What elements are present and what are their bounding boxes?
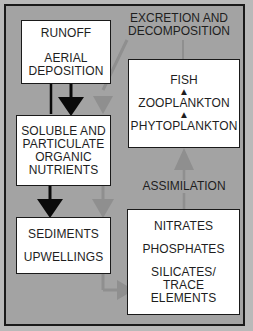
food-chain-box: FISH ▲ ZOOPLANKTON ▲ PHYTOPLANKTON (128, 59, 240, 148)
organic-line1: SOLUBLE AND (21, 125, 105, 138)
excretion-decomposition-label: EXCRETION AND DECOMPOSITION (116, 12, 242, 38)
organic-nutrients-box: SOLUBLE AND PARTICULATE ORGANIC NUTRIENT… (16, 115, 111, 186)
black-arrow-organic-to-sediments-icon (37, 186, 63, 218)
organic-line2: PARTICULATE (23, 138, 105, 151)
upwellings-label: UPWELLINGS (24, 251, 104, 264)
sediments-box: SEDIMENTS UPWELLINGS (16, 217, 111, 274)
aerial-label: AERIAL (44, 52, 87, 65)
gray-arrow-organic-to-sediments-icon (92, 186, 114, 218)
sources-box: RUNOFF AERIAL DEPOSITION (21, 20, 111, 84)
deposition-label: DEPOSITION (28, 65, 103, 78)
inorganic-nutrients-box: NITRATES PHOSPHATES SILICATES/ TRACE ELE… (127, 209, 240, 315)
phytoplankton-label: PHYTOPLANKTON (131, 120, 238, 133)
silicates-label: SILICATES/ (151, 266, 216, 279)
trace-label: TRACE (163, 279, 204, 292)
sediments-label: SEDIMENTS (28, 228, 99, 241)
runoff-label: RUNOFF (41, 27, 92, 40)
nitrates-label: NITRATES (154, 220, 213, 233)
excretion-label-line2: DECOMPOSITION (116, 25, 242, 38)
assimilation-label: ASSIMILATION (128, 180, 240, 193)
organic-line4: NUTRIENTS (29, 164, 99, 177)
black-arrow-sources-to-organic-icon (58, 84, 84, 116)
elements-label: ELEMENTS (151, 292, 216, 305)
organic-line3: ORGANIC (35, 151, 92, 164)
phosphates-label: PHOSPHATES (142, 243, 224, 256)
